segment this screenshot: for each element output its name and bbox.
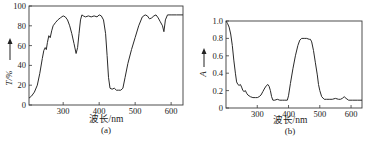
x-tick-label: 300 <box>251 109 264 119</box>
chart-b-x-label: 波长/nm <box>273 114 308 125</box>
chart-b-y-arrowhead-icon <box>202 48 207 54</box>
chart-a-x-label: 波长/nm <box>89 113 124 124</box>
chart-a-transmittance: 020406080100 300400500600 T/% 波长/nm (a) <box>4 1 183 135</box>
y-tick-label: 0 <box>22 100 26 110</box>
figure: 020406080100 300400500600 T/% 波长/nm (a) … <box>0 0 366 151</box>
x-tick-label: 500 <box>313 109 326 119</box>
y-tick-label: 0.2 <box>212 86 223 96</box>
x-tick-label: 300 <box>57 106 70 116</box>
chart-b-y-ticks: 00.20.40.60.81.0 <box>212 16 229 113</box>
chart-b-absorbance-curve <box>226 21 362 100</box>
chart-a-transmittance-curve <box>29 15 183 98</box>
figure-svg: 020406080100 300400500600 T/% 波长/nm (a) … <box>0 0 366 151</box>
y-tick-label: 0 <box>219 103 223 113</box>
chart-a-y-arrowhead-icon <box>8 38 13 44</box>
chart-a-y-axis-label: T/% <box>4 38 14 86</box>
chart-a-y-label: T/% <box>4 70 14 85</box>
chart-b-absorbance: 00.20.40.60.81.0 300400500600 A 波长/nm (b… <box>198 16 362 136</box>
x-tick-label: 600 <box>345 109 358 119</box>
y-tick-label: 0.4 <box>212 68 223 78</box>
y-tick-label: 1.0 <box>212 16 223 26</box>
chart-a-caption: (a) <box>101 125 111 135</box>
x-tick-label: 600 <box>165 106 178 116</box>
y-tick-label: 60 <box>18 41 27 51</box>
y-tick-label: 20 <box>18 80 27 90</box>
x-tick-label: 500 <box>129 106 142 116</box>
y-tick-label: 40 <box>18 60 27 70</box>
y-tick-label: 80 <box>18 21 27 31</box>
chart-b-y-label: A <box>198 71 208 78</box>
y-tick-label: 0.6 <box>212 51 223 61</box>
chart-b-y-axis-label: A <box>198 48 208 78</box>
y-tick-label: 100 <box>13 1 26 11</box>
y-tick-label: 0.8 <box>212 33 223 43</box>
chart-b-caption: (b) <box>285 126 296 136</box>
